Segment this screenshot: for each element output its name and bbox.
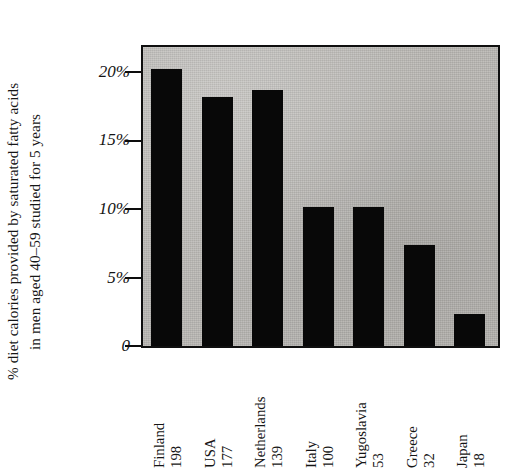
bar-rect xyxy=(404,245,435,346)
bar-greece xyxy=(404,245,435,346)
bar-rect xyxy=(202,97,233,346)
x-tick-country-number: 198 xyxy=(168,350,186,468)
y-tick-label-15: 15% xyxy=(60,131,130,148)
x-tick-label-usa: USA177 xyxy=(202,350,237,468)
y-tick-mark-5 xyxy=(125,277,141,279)
bar-usa xyxy=(202,97,233,346)
x-tick-label-greece: Greece32 xyxy=(404,350,439,468)
y-axis-tick-labels: 20% 15% 10% 5% 0 xyxy=(50,0,130,472)
x-tick-country-name: Italy xyxy=(303,350,321,468)
x-tick-label-netherlands: Netherlands139 xyxy=(252,350,287,468)
y-axis-title-line-2: in men aged 40–59 studied for 5 years xyxy=(26,114,44,350)
y-tick-label-10: 10% xyxy=(60,200,130,217)
y-tick-mark-0 xyxy=(125,345,141,347)
x-axis-tick-labels: Finland198USA177Netherlands139Italy100Yu… xyxy=(141,350,500,472)
x-tick-label-finland: Finland198 xyxy=(151,350,186,468)
x-tick-country-number: 100 xyxy=(320,350,338,468)
bar-chart-figure: % diet calories provided by saturated fa… xyxy=(0,0,518,472)
x-tick-label-yugoslavia: Yugoslavia53 xyxy=(353,350,388,468)
x-tick-country-number: 53 xyxy=(370,350,388,468)
bar-rect xyxy=(151,69,182,346)
y-tick-mark-10 xyxy=(125,208,141,210)
y-tick-mark-15 xyxy=(125,140,141,142)
bar-rect xyxy=(303,207,334,346)
x-tick-country-name: Yugoslavia xyxy=(353,350,371,468)
x-tick-country-name: Japan xyxy=(454,350,472,468)
plot-area xyxy=(143,47,498,346)
y-tick-label-20: 20% xyxy=(60,63,130,80)
x-tick-country-name: Greece xyxy=(404,350,422,468)
bar-rect xyxy=(353,207,384,346)
x-tick-country-number: 18 xyxy=(471,350,489,468)
bar-italy xyxy=(303,207,334,346)
bar-japan xyxy=(454,314,485,346)
plot-panel xyxy=(141,45,500,348)
y-tick-label-0: 0 xyxy=(60,337,130,354)
y-axis-title-line-1: % diet calories provided by saturated fa… xyxy=(4,83,22,380)
x-tick-country-number: 177 xyxy=(219,350,237,468)
x-tick-country-name: Netherlands xyxy=(252,350,270,468)
bar-rect xyxy=(454,314,485,346)
x-tick-country-name: USA xyxy=(202,350,220,468)
bar-finland xyxy=(151,69,182,346)
x-tick-label-italy: Italy100 xyxy=(303,350,338,468)
bar-rect xyxy=(252,90,283,346)
x-tick-country-number: 139 xyxy=(269,350,287,468)
x-tick-country-name: Finland xyxy=(151,350,169,468)
y-tick-mark-20 xyxy=(125,71,141,73)
bar-netherlands xyxy=(252,90,283,346)
bar-yugoslavia xyxy=(353,207,384,346)
x-tick-country-number: 32 xyxy=(421,350,439,468)
x-tick-label-japan: Japan18 xyxy=(454,350,489,468)
y-tick-label-5: 5% xyxy=(60,269,130,286)
